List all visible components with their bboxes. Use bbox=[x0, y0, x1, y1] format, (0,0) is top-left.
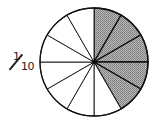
pie-center-dot bbox=[92, 60, 96, 64]
fraction-pie-chart bbox=[0, 0, 156, 123]
